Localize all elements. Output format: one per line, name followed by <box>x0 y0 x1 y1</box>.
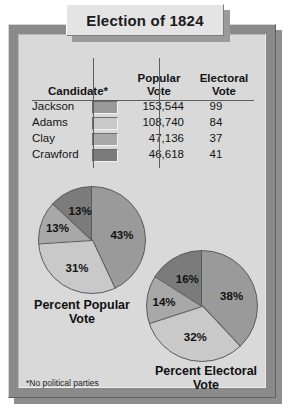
pie-caption-electoral: Percent Electoral Vote <box>140 364 272 392</box>
pie-chart-electoral-vote: 38%32%14%16% <box>146 250 258 362</box>
electoral-vote-value: 99 <box>194 100 238 112</box>
electoral-vote-value: 84 <box>194 116 238 128</box>
results-table: Candidate* Popular Vote Electoral Vote J… <box>32 56 254 164</box>
column-header-electoral-line2: Vote <box>194 85 254 98</box>
table-vertical-rule <box>159 58 160 168</box>
table-row: Crawford 46,618 41 <box>32 148 254 164</box>
candidate-name: Clay <box>32 132 55 144</box>
pie-slice-label: 31% <box>66 262 89 274</box>
color-swatch <box>92 101 118 114</box>
pie-slice-divider <box>38 240 92 244</box>
table-header-rule <box>32 100 254 101</box>
title-plate: Election of 1824 <box>66 4 224 36</box>
pie-slice-divider <box>92 240 116 289</box>
popular-vote-value: 153,544 <box>128 100 184 112</box>
pie-caption-popular-line1: Percent Popular <box>26 298 138 312</box>
pie-slice-divider <box>201 250 202 306</box>
table-row: Adams 108,740 84 <box>32 116 254 132</box>
color-swatch <box>92 117 118 130</box>
pie-slice-label: 32% <box>184 331 207 343</box>
pie-slice-label: 13% <box>69 205 92 217</box>
table-row: Jackson 153,544 99 <box>32 100 254 116</box>
pie-caption-popular-line2: Vote <box>26 312 138 326</box>
pie-slice-label: 43% <box>110 229 133 241</box>
pie-slice-label: 14% <box>153 296 176 308</box>
electoral-vote-value: 37 <box>194 132 238 144</box>
table-vertical-rule <box>93 58 94 168</box>
candidate-name: Jackson <box>32 100 74 112</box>
candidate-name: Adams <box>32 116 68 128</box>
popular-vote-value: 47,136 <box>128 132 184 144</box>
column-header-candidate: Candidate* <box>32 85 124 98</box>
page-title: Election of 1824 <box>86 12 203 29</box>
election-infographic: Election of 1824 Candidate* Popular Vote… <box>0 0 292 408</box>
table-header-row: Candidate* Popular Vote Electoral Vote <box>32 56 254 100</box>
color-swatch <box>92 133 118 146</box>
pie-chart-popular-vote: 43%31%13%13% <box>38 186 146 294</box>
column-header-electoral-vote: Electoral Vote <box>194 72 254 98</box>
popular-vote-value: 108,740 <box>128 116 184 128</box>
footnote: *No political parties <box>26 378 99 388</box>
table-row: Clay 47,136 37 <box>32 132 254 148</box>
color-swatch <box>92 149 118 162</box>
electoral-vote-value: 41 <box>194 148 238 160</box>
pie-caption-electoral-line1: Percent Electoral <box>140 364 272 378</box>
column-header-electoral-line1: Electoral <box>194 72 254 85</box>
pie-slice-divider <box>202 305 241 347</box>
pie-slice-label: 38% <box>220 290 243 302</box>
pie-caption-popular: Percent Popular Vote <box>26 298 138 326</box>
pie-slice-divider <box>149 306 203 324</box>
pie-slice-label: 13% <box>46 222 69 234</box>
candidate-name: Crawford <box>32 148 79 160</box>
popular-vote-value: 46,618 <box>128 148 184 160</box>
pie-slice-label: 16% <box>176 273 199 285</box>
pie-caption-electoral-line2: Vote <box>140 378 272 392</box>
